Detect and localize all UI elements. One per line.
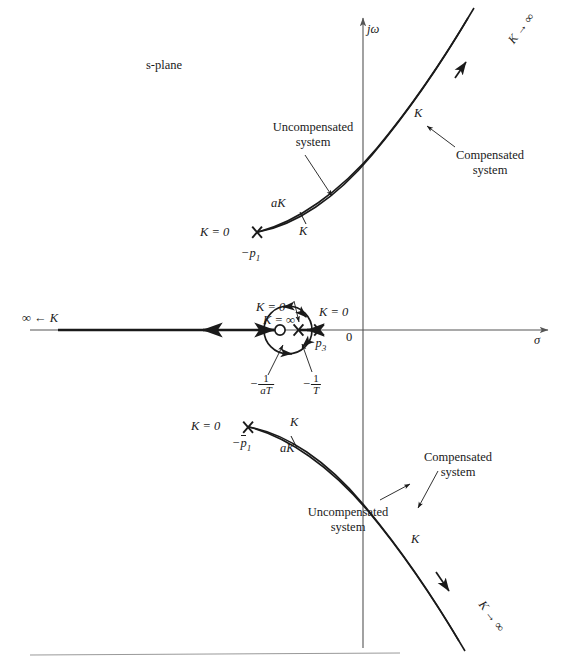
- root-locus-figure: [0, 0, 569, 665]
- pole-label-p1: −p1: [241, 246, 260, 263]
- locus-arrow-upper: [455, 62, 466, 78]
- gain-label-aK-upper: aK: [271, 196, 286, 211]
- gain-label-k-to-infinity-real-axis: ∞ ← K: [22, 311, 58, 326]
- annotation-uncompensated-upper: Uncompensated system: [273, 120, 354, 150]
- gain-label-K-upper-inner: K: [299, 224, 307, 239]
- annotation-uncompensated-lower: Uncompensated system: [308, 505, 389, 535]
- pole-label-p1-conjugate: −p1: [232, 436, 251, 453]
- gain-label-K-lower-branch: K: [411, 532, 419, 547]
- leader-uncompensated-lower: [380, 484, 410, 500]
- gain-label-k-zero-p1: K = 0: [200, 225, 229, 240]
- axis-label-jomega: jω: [367, 22, 379, 37]
- leader-uncompensated-upper: [305, 155, 332, 196]
- pole-label-p3: −p3: [307, 336, 326, 353]
- gain-label-K-upper-branch: K: [414, 106, 422, 121]
- pole-label-minus-one-over-T: − 1 T: [303, 373, 321, 396]
- s-plane-label: s-plane: [146, 58, 182, 73]
- origin-label: 0: [346, 330, 352, 345]
- annotation-compensated-upper: Compensated system: [456, 148, 524, 178]
- annotation-compensated-lower: Compensated system: [424, 450, 492, 480]
- leader-compensated-upper: [427, 126, 455, 147]
- gain-label-aK-lower: aK: [280, 441, 295, 456]
- figure-separator-rule: [30, 653, 400, 655]
- zero-label-minus-one-over-aT: − 1 aT: [250, 373, 274, 396]
- locus-arrow-lower: [436, 572, 449, 591]
- gain-label-k-infinity: K = ∞: [263, 313, 295, 328]
- gain-label-k-zero-p3: K = 0: [319, 305, 348, 320]
- gain-label-K-lower-inner: K: [290, 415, 298, 430]
- gain-label-k-zero-p1-conjugate: K = 0: [191, 419, 220, 434]
- axis-label-sigma: σ: [534, 333, 540, 348]
